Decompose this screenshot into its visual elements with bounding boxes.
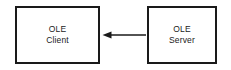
node-ole-server-label-line1: OLE	[173, 24, 190, 35]
diagram-canvas: OLE Client OLE Server	[0, 0, 231, 70]
node-ole-server[interactable]: OLE Server	[147, 6, 217, 64]
node-ole-client[interactable]: OLE Client	[15, 6, 100, 64]
node-ole-client-label-line2: Client	[46, 35, 69, 46]
node-ole-server-label-line2: Server	[169, 35, 195, 46]
node-ole-client-label-line1: OLE	[49, 24, 66, 35]
arrowhead-left-icon	[103, 32, 112, 39]
connector-arrow-server-to-client	[100, 27, 147, 43]
